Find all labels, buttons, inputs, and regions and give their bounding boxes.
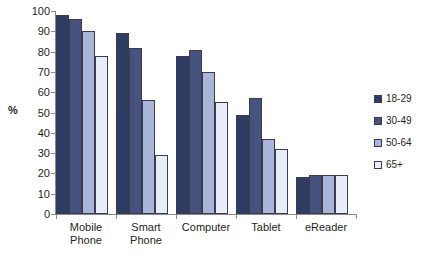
x-axis-category-label: Tablet	[236, 221, 296, 234]
x-axis-category-label-line: Phone	[116, 234, 176, 247]
x-axis-category-label-line: Mobile	[56, 221, 116, 234]
y-axis-tick-label: 40	[20, 127, 50, 138]
x-axis-line	[55, 214, 357, 215]
chart-legend: 18-2930-4950-6465+	[374, 88, 412, 176]
legend-item: 65+	[374, 154, 412, 176]
x-axis-category-label-line: Smart	[116, 221, 176, 234]
bar	[309, 175, 322, 214]
x-axis-category-label: eReader	[296, 221, 356, 234]
y-axis-tick-label: 60	[20, 87, 50, 98]
legend-swatch-icon	[374, 139, 382, 147]
y-axis-tick-label: 10	[20, 188, 50, 199]
x-axis-tick-mark	[236, 214, 237, 219]
y-axis-tick-label: 20	[20, 168, 50, 179]
bar-group	[296, 11, 348, 214]
y-axis-tick-mark	[51, 133, 56, 134]
legend-item-label: 65+	[386, 160, 403, 170]
bar	[69, 19, 82, 214]
y-axis-tick-label: 0	[20, 209, 50, 220]
y-axis-tick-labels: 1009080706050403020100	[20, 6, 50, 214]
bar-group	[56, 11, 108, 214]
legend-swatch-icon	[374, 95, 382, 103]
legend-swatch-icon	[374, 117, 382, 125]
y-axis-tick-label: 30	[20, 148, 50, 159]
y-axis-tick-label: 50	[20, 107, 50, 118]
bar-group	[176, 11, 228, 214]
y-axis-tick-label: 100	[20, 6, 50, 17]
bar	[275, 149, 288, 214]
y-axis-tick-mark	[51, 173, 56, 174]
bar	[335, 175, 348, 214]
legend-swatch-icon	[374, 161, 382, 169]
bar	[82, 31, 95, 214]
y-axis-tick-mark	[51, 52, 56, 53]
x-axis-category-label-line: Tablet	[236, 221, 296, 234]
legend-item: 30-49	[374, 110, 412, 132]
bar	[176, 56, 189, 214]
y-axis-tick-mark	[51, 11, 56, 12]
bar	[95, 56, 108, 214]
bar	[56, 15, 69, 214]
legend-item: 18-29	[374, 88, 412, 110]
bar-group	[116, 11, 168, 214]
legend-item: 50-64	[374, 132, 412, 154]
bar	[129, 48, 142, 214]
x-axis-category-label: MobilePhone	[56, 221, 116, 247]
x-axis-tick-mark	[296, 214, 297, 219]
x-axis-category-label-line: eReader	[296, 221, 356, 234]
y-axis-tick-mark	[51, 72, 56, 73]
bar	[249, 98, 262, 214]
bar	[155, 155, 168, 214]
x-axis-tick-mark	[356, 214, 357, 219]
y-axis-tick-label: 70	[20, 66, 50, 77]
legend-item-label: 18-29	[386, 94, 412, 104]
x-axis-tick-mark	[116, 214, 117, 219]
bar-chart-figure: % 1009080706050403020100 18-2930-4950-64…	[0, 0, 427, 262]
x-axis-category-label-line: Computer	[176, 221, 236, 234]
bar	[322, 175, 335, 214]
y-axis-tick-mark	[51, 92, 56, 93]
bar	[262, 139, 275, 214]
y-axis-tick-label: 90	[20, 26, 50, 37]
bar	[202, 72, 215, 214]
y-axis-tick-mark	[51, 194, 56, 195]
x-axis-category-label-line: Phone	[56, 234, 116, 247]
bar	[189, 50, 202, 214]
bar	[215, 102, 228, 214]
bar	[142, 100, 155, 214]
y-axis-tick-mark	[51, 113, 56, 114]
y-axis-tick-mark	[51, 153, 56, 154]
y-axis-tick-label: 80	[20, 46, 50, 57]
bar-group	[236, 11, 288, 214]
x-axis-tick-mark	[176, 214, 177, 219]
x-axis-tick-mark	[56, 214, 57, 219]
y-axis-tick-mark	[51, 31, 56, 32]
bar	[236, 115, 249, 214]
legend-item-label: 50-64	[386, 138, 412, 148]
x-axis-category-label: Computer	[176, 221, 236, 234]
x-axis-category-label: SmartPhone	[116, 221, 176, 247]
bar	[296, 177, 309, 214]
legend-item-label: 30-49	[386, 116, 412, 126]
bar	[116, 33, 129, 214]
plot-area	[56, 11, 356, 214]
